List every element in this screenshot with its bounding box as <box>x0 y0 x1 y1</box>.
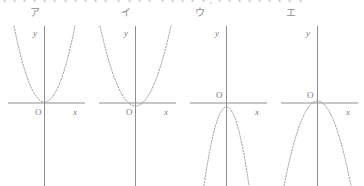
figure-root: ・・・・・・・・・・・ ・・・・ ・・・・・、・・・・・・・・・ ア y x O… <box>0 0 364 186</box>
panel-u: ウ y x O <box>182 0 273 186</box>
origin-label-e: O <box>307 90 314 100</box>
plot-area-e: y x O <box>273 18 364 186</box>
panel-label-a: ア <box>30 8 40 18</box>
x-axis-label-u: x <box>254 107 259 117</box>
x-axis-label-i: x <box>163 107 168 117</box>
x-axis-label-a: x <box>72 107 77 117</box>
panel-label-u: ウ <box>195 8 205 18</box>
panel-label-e: エ <box>286 8 296 18</box>
panel-i: イ y x O <box>91 0 182 186</box>
y-axis-label-i: y <box>123 28 128 38</box>
origin-label-i: O <box>126 107 133 117</box>
panel-e: エ y x O <box>273 0 364 186</box>
panel-grid: ア y x O イ y x <box>0 0 364 186</box>
plot-area-i: y x O <box>91 18 182 186</box>
y-axis-label-e: y <box>305 28 310 38</box>
plot-area-a: y x O <box>0 18 91 186</box>
y-axis-label-u: y <box>214 28 219 38</box>
origin-label-u: O <box>216 90 223 100</box>
panel-a: ア y x O <box>0 0 91 186</box>
origin-label-a: O <box>35 107 42 117</box>
plot-area-u: y x O <box>182 18 273 186</box>
panel-label-i: イ <box>121 8 131 18</box>
x-axis-label-e: x <box>345 107 350 117</box>
y-axis-label-a: y <box>32 28 37 38</box>
